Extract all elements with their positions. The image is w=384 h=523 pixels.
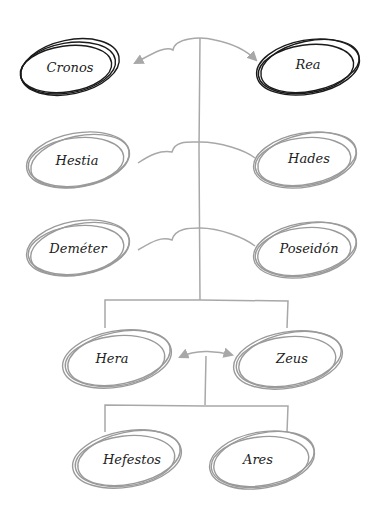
node-demeter[interactable]: Deméter [22, 212, 134, 283]
node-label: Hera [95, 351, 129, 366]
node-label: Hades [287, 151, 330, 166]
node-hera[interactable]: Hera [58, 322, 176, 396]
node-label: Ares [242, 452, 273, 467]
family-tree-diagram: Cronos Rea Hestia Hades Deméter Poseidón… [0, 0, 384, 523]
node-label: Poseidón [278, 241, 338, 256]
node-label: Zeus [275, 351, 308, 366]
cronos-rea-arrow [135, 38, 256, 63]
node-hestia[interactable]: Hestia [22, 124, 134, 195]
node-hades[interactable]: Hades [249, 124, 361, 195]
trunk-line-2 [205, 356, 206, 405]
node-rea[interactable]: Rea [252, 31, 364, 102]
bracket-hera-zeus [105, 300, 288, 328]
node-ares[interactable]: Ares [205, 423, 319, 497]
hestia-hades-link [138, 142, 255, 163]
node-label: Rea [294, 57, 320, 72]
node-label: Hefestos [102, 452, 161, 467]
trunk-line [199, 38, 200, 300]
node-label: Deméter [48, 241, 107, 256]
node-poseidon[interactable]: Poseidón [249, 214, 361, 285]
node-hefestos[interactable]: Hefestos [68, 422, 186, 496]
node-zeus[interactable]: Zeus [229, 323, 347, 397]
demeter-poseidon-link [138, 228, 255, 250]
node-label: Hestia [55, 153, 99, 168]
bracket-hefestos-ares [105, 405, 288, 432]
node-label: Cronos [47, 60, 94, 75]
node-cronos[interactable]: Cronos [15, 30, 124, 104]
